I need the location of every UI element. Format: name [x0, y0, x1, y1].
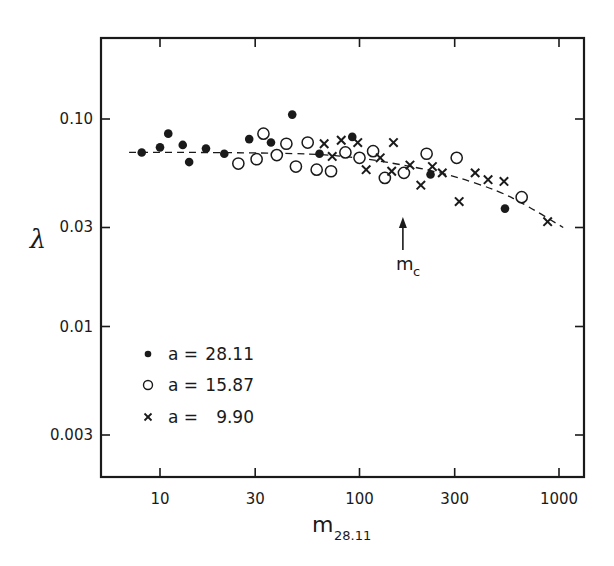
- legend-a-label: a =: [168, 407, 198, 427]
- legend-item: a =9.90: [145, 407, 255, 427]
- legend-value: 15.87: [205, 375, 254, 395]
- data-point: [376, 154, 384, 162]
- series-cross: [320, 136, 552, 226]
- legend-a-label: a =: [168, 375, 198, 395]
- y-tick-label: 0.03: [60, 218, 93, 236]
- mc-subscript: c: [413, 264, 420, 279]
- series-open-circle: [233, 128, 528, 203]
- mc-annotation: mc: [396, 217, 420, 279]
- x-axis-subscript: 28.11: [334, 528, 371, 543]
- data-point: [178, 141, 187, 150]
- x-axis-title: m: [312, 512, 333, 537]
- data-point: [325, 166, 336, 177]
- data-point: [543, 217, 551, 225]
- x-tick-label: 300: [440, 490, 469, 508]
- data-point: [501, 204, 510, 213]
- x-tick-label: 30: [246, 490, 265, 508]
- data-point: [337, 136, 345, 144]
- data-point: [471, 169, 479, 177]
- y-tick-label: 0.003: [50, 426, 93, 444]
- data-point: [220, 149, 229, 158]
- legend-cross-icon: [145, 414, 152, 421]
- data-point: [315, 149, 324, 158]
- mc-label: m: [396, 253, 414, 274]
- data-point: [406, 161, 414, 169]
- data-point: [389, 138, 397, 146]
- legend: a =28.11a =15.87a =9.90: [144, 344, 255, 427]
- data-point: [417, 181, 425, 189]
- data-point: [362, 165, 370, 173]
- data-point: [156, 143, 165, 152]
- data-point: [451, 152, 462, 163]
- data-point: [202, 144, 211, 153]
- data-point: [340, 147, 351, 158]
- data-point: [281, 138, 292, 149]
- data-point: [164, 129, 173, 138]
- data-point: [428, 162, 436, 170]
- legend-value: 28.11: [205, 344, 254, 364]
- data-point: [137, 148, 146, 157]
- data-point: [320, 140, 328, 148]
- data-point: [251, 154, 262, 165]
- x-tick-label: 100: [345, 490, 374, 508]
- y-tick-label: 0.01: [60, 318, 93, 336]
- data-point: [302, 137, 313, 148]
- legend-open-circle-icon: [144, 381, 153, 390]
- data-point: [426, 170, 435, 179]
- data-point: [354, 152, 365, 163]
- data-points: [137, 110, 551, 226]
- data-point: [421, 148, 432, 159]
- x-tick-label: 1000: [540, 490, 578, 508]
- fit-curve: [129, 152, 563, 227]
- legend-filled-circle-icon: [145, 351, 152, 358]
- legend-a-label: a =: [168, 344, 198, 364]
- data-point: [233, 158, 244, 169]
- data-point: [311, 164, 322, 175]
- y-tick-label: 0.10: [60, 110, 93, 128]
- legend-item: a =15.87: [144, 375, 255, 395]
- axis-ticks: 103010030010000.100.030.010.003: [50, 38, 584, 508]
- data-point: [245, 135, 254, 144]
- data-point: [290, 161, 301, 172]
- data-point: [455, 197, 463, 205]
- arrow-up-icon: [399, 217, 407, 228]
- data-point: [438, 169, 446, 177]
- y-axis-title: λ: [29, 224, 46, 254]
- axis-labels: m28.11λ: [29, 224, 371, 543]
- legend-item: a =28.11: [145, 344, 254, 364]
- data-point: [288, 110, 297, 119]
- data-point: [398, 167, 409, 178]
- x-tick-label: 10: [150, 490, 169, 508]
- data-point: [328, 152, 336, 160]
- data-point: [516, 192, 527, 203]
- fit-curve-dashed: [129, 152, 563, 227]
- data-point: [271, 149, 282, 160]
- data-point: [258, 128, 269, 139]
- data-point: [387, 167, 395, 175]
- data-point: [354, 138, 362, 146]
- legend-value: 9.90: [216, 407, 254, 427]
- chart: 103010030010000.100.030.010.003 mc a =28…: [0, 0, 614, 566]
- data-point: [500, 177, 508, 185]
- data-point: [267, 138, 276, 147]
- data-point: [185, 158, 194, 167]
- data-point: [484, 175, 492, 183]
